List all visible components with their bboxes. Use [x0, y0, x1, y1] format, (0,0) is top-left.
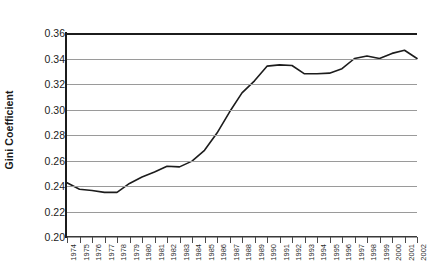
x-axis-tick-label-text: 1982	[170, 244, 178, 261]
grid-line	[67, 161, 417, 162]
x-axis-tick-label: 1986	[220, 244, 228, 261]
x-axis-tick-label-text: 1979	[133, 244, 141, 261]
grid-line	[67, 212, 417, 213]
x-axis-tick-mark	[167, 237, 168, 243]
x-axis-tick-label-text: 1987	[233, 244, 241, 261]
x-axis-tick-mark	[317, 237, 318, 243]
x-axis-tick-mark	[392, 237, 393, 243]
x-axis-tick-label-text: 1992	[295, 244, 303, 261]
x-axis-tick-label: 1988	[245, 244, 253, 261]
x-axis-tick-label-text: 1978	[120, 244, 128, 261]
x-axis-tick-label-text: 1975	[83, 244, 91, 261]
x-axis-tick-mark	[342, 237, 343, 243]
y-axis-tick-label: 0.28	[21, 129, 65, 141]
x-axis-tick-mark	[80, 237, 81, 243]
x-axis-tick-label-text: 1976	[95, 244, 103, 261]
x-axis-tick-label: 1978	[120, 244, 128, 261]
x-axis-tick-label: 1975	[83, 244, 91, 261]
chart-figure: Gini Coefficient 0.360.340.320.300.280.2…	[0, 0, 432, 264]
x-axis-tick-label: 1989	[258, 244, 266, 261]
x-axis-tick-mark	[130, 237, 131, 243]
x-axis-tick-mark	[155, 237, 156, 243]
x-axis-tick-labels: 1974197519761977197819791980198119821983…	[67, 244, 417, 264]
x-axis-tick-label: 2000	[395, 244, 403, 261]
x-axis-tick-mark	[417, 237, 418, 243]
x-axis-tick-label-text: 2000	[395, 244, 403, 261]
grid-line	[67, 186, 417, 187]
plot-area	[67, 33, 417, 237]
x-axis-tick-mark	[217, 237, 218, 243]
x-axis-tick-label-text: 1981	[158, 244, 166, 261]
y-axis-tick-label: 0.34	[21, 53, 65, 65]
x-axis-tick-label-text: 1988	[245, 244, 253, 261]
y-axis-tick-label: 0.36	[21, 27, 65, 39]
x-axis-tick-label-text: 2001	[408, 244, 416, 261]
x-axis-tick-label: 1993	[308, 244, 316, 261]
x-axis-tick-label-text: 1991	[283, 244, 291, 261]
y-axis-title: Gini Coefficient	[0, 30, 18, 230]
x-axis-tick-label: 1990	[270, 244, 278, 261]
x-axis-tick-label-text: 1974	[70, 244, 78, 261]
y-axis-tick-label: 0.24	[21, 180, 65, 192]
x-axis-tick-mark	[267, 237, 268, 243]
x-axis-tick-mark	[230, 237, 231, 243]
x-axis-tick-label: 1991	[283, 244, 291, 261]
x-axis-tick-mark	[117, 237, 118, 243]
grid-line	[67, 135, 417, 136]
x-axis-tick-label: 1983	[183, 244, 191, 261]
x-axis-tick-mark	[180, 237, 181, 243]
y-axis-tick-label: 0.20	[21, 231, 65, 243]
x-axis-tick-mark	[330, 237, 331, 243]
x-axis-tick-mark	[280, 237, 281, 243]
x-axis-tick-label-text: 1985	[208, 244, 216, 261]
x-axis-tick-mark	[305, 237, 306, 243]
x-axis-tick-label: 1987	[233, 244, 241, 261]
x-axis-tick-label-text: 1998	[370, 244, 378, 261]
x-axis-tick-label: 2002	[420, 244, 428, 261]
x-axis-tick-mark	[242, 237, 243, 243]
x-axis-tick-label-text: 1977	[108, 244, 116, 261]
grid-line	[67, 59, 417, 60]
x-axis-tick-label-text: 1997	[358, 244, 366, 261]
x-axis-tick-label-text: 1993	[308, 244, 316, 261]
x-axis-tick-label: 1995	[333, 244, 341, 261]
x-axis-tick-label-text: 1999	[383, 244, 391, 261]
x-axis-tick-label: 1976	[95, 244, 103, 261]
x-axis-tick-label: 2001	[408, 244, 416, 261]
x-axis-tick-label-text: 1996	[345, 244, 353, 261]
grid-line	[67, 110, 417, 111]
x-axis-tick-label-text: 1994	[320, 244, 328, 261]
y-axis-tick-labels: 0.360.340.320.300.280.260.240.220.20	[19, 0, 65, 264]
y-axis-title-label: Gini Coefficient	[3, 90, 15, 169]
x-axis-tick-label: 1982	[170, 244, 178, 261]
grid-line	[67, 84, 417, 85]
x-axis-tick-label-text: 2002	[420, 244, 428, 261]
x-axis-tick-label-text: 1990	[270, 244, 278, 261]
x-axis-tick-mark	[255, 237, 256, 243]
y-axis-tick-label: 0.22	[21, 206, 65, 218]
x-axis-tick-mark	[355, 237, 356, 243]
x-axis-tick-label: 1981	[158, 244, 166, 261]
x-axis-tick-label: 1994	[320, 244, 328, 261]
x-axis-tick-mark	[142, 237, 143, 243]
x-axis-tick-label-text: 1995	[333, 244, 341, 261]
x-axis-tick-mark	[380, 237, 381, 243]
x-axis-tick-label: 1996	[345, 244, 353, 261]
x-axis-tick-label: 1984	[195, 244, 203, 261]
x-axis-tick-mark	[205, 237, 206, 243]
x-axis-tick-label: 1998	[370, 244, 378, 261]
x-axis-tick-mark	[405, 237, 406, 243]
x-axis-tick-mark	[367, 237, 368, 243]
x-axis-tick-label: 1974	[70, 244, 78, 261]
x-axis-tick-label-text: 1984	[195, 244, 203, 261]
x-axis-tick-label: 1985	[208, 244, 216, 261]
x-axis-tick-label-text: 1986	[220, 244, 228, 261]
x-axis-tick-mark	[292, 237, 293, 243]
gini-line-path	[67, 50, 417, 192]
x-axis-tick-mark	[192, 237, 193, 243]
x-axis-tick-label: 1977	[108, 244, 116, 261]
x-axis-tick-label: 1999	[383, 244, 391, 261]
x-axis-tick-label: 1997	[358, 244, 366, 261]
y-axis-tick-label: 0.30	[21, 104, 65, 116]
x-axis-tick-label: 1992	[295, 244, 303, 261]
